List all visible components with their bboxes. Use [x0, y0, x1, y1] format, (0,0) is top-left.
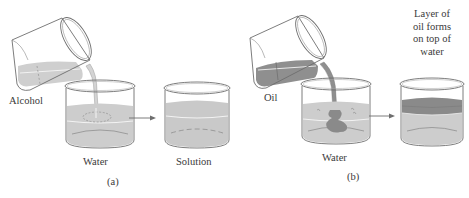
annotation-line: on top of: [397, 33, 467, 46]
annotation-line: oil forms: [397, 21, 467, 34]
arrow-right-icon: [129, 116, 156, 121]
annotation-line: water: [397, 46, 467, 59]
oil-pouring-beaker-icon: [250, 11, 333, 89]
water-label-a: Water: [83, 157, 108, 168]
arrow-right-icon: [369, 114, 395, 119]
annotation-line: Layer of: [397, 8, 467, 21]
caption-b: (b): [347, 172, 359, 183]
mixing-diagram: Alcohol Water Solution (a) Oil Water (b)…: [0, 0, 469, 198]
solution-beaker-icon: [164, 82, 230, 148]
water-label-b: Water: [322, 153, 347, 164]
caption-a: (a): [107, 177, 119, 188]
alcohol-stream: [86, 64, 98, 108]
oil-layer-beaker-icon: [400, 78, 464, 146]
oil-layer-annotation: Layer of oil forms on top of water: [397, 8, 467, 58]
alcohol-pouring-beaker-icon: [12, 13, 98, 91]
oil-label: Oil: [264, 93, 277, 104]
water-beaker-b-icon: [301, 78, 371, 144]
alcohol-label: Alcohol: [9, 96, 43, 107]
solution-label: Solution: [176, 157, 212, 168]
water-beaker-a-icon: [65, 80, 135, 148]
